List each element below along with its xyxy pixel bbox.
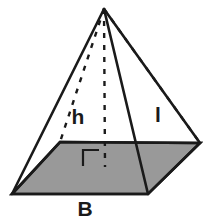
slant-height-label: l (155, 103, 161, 126)
base-area-label: B (77, 197, 92, 220)
height-label: h (72, 105, 85, 128)
geometry-figure-canvas: h l B (0, 0, 208, 223)
square-pyramid-diagram: h l B (0, 0, 208, 223)
